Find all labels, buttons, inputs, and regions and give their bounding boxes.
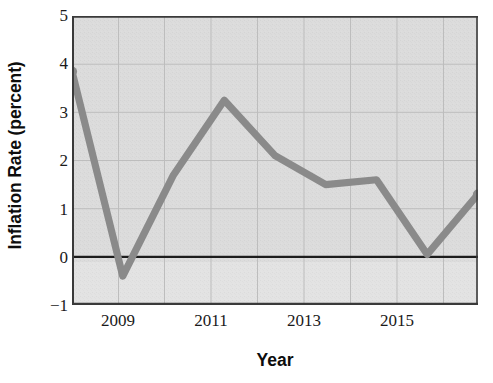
x-axis-tick-labels: 2009 2011 2013 2015	[0, 0, 493, 383]
x-tick-label: 2011	[194, 311, 227, 331]
chart-screenshot: Inflation Rate (percent) 5 4 3 2 1 0 −1	[0, 0, 493, 383]
x-tick-label: 2013	[287, 311, 321, 331]
x-tick-label: 2015	[380, 311, 414, 331]
x-axis-label: Year	[72, 350, 478, 371]
x-tick-label: 2009	[101, 311, 135, 331]
